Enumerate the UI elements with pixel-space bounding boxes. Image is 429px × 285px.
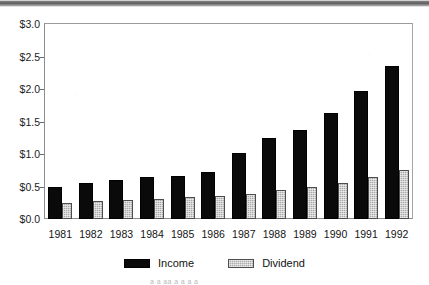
y-axis: $3.0$2.5$2.0$1.5$1.0$0.5$0.0 <box>0 0 40 285</box>
y-tick-mark <box>40 154 44 155</box>
bar-group <box>79 24 103 219</box>
bar-group <box>201 24 225 219</box>
bars-layer <box>45 24 412 219</box>
x-tick-label: 1990 <box>320 228 351 240</box>
bar-group <box>171 24 195 219</box>
bar-dividend-1981[interactable] <box>62 203 72 219</box>
y-tick-mark <box>40 89 44 90</box>
x-tick-label: 1991 <box>351 228 382 240</box>
bar-income-1983[interactable] <box>109 180 123 219</box>
bar-income-1990[interactable] <box>324 113 338 219</box>
bar-dividend-1988[interactable] <box>276 190 286 219</box>
bar-income-1986[interactable] <box>201 172 215 219</box>
x-tick-label: 1987 <box>229 228 260 240</box>
legend-item-dividend[interactable]: Dividend <box>228 258 305 269</box>
bar-income-1982[interactable] <box>79 183 93 219</box>
x-tick-label: 1981 <box>45 228 76 240</box>
y-tick-label: $0.0 <box>0 214 40 224</box>
bar-dividend-1986[interactable] <box>215 196 225 219</box>
x-tick-label: 1985 <box>167 228 198 240</box>
y-tick-mark <box>40 57 44 58</box>
bar-income-1984[interactable] <box>140 177 154 219</box>
y-tick-label: $3.0 <box>0 19 40 29</box>
bar-group <box>262 24 286 219</box>
bar-income-1989[interactable] <box>293 130 307 219</box>
bar-group <box>140 24 164 219</box>
x-tick-label: 1984 <box>137 228 168 240</box>
legend-label-income: Income <box>158 258 194 269</box>
chart-legend: Income Dividend <box>0 255 429 271</box>
page-caption-cutoff: a a aa a a a a <box>150 279 425 285</box>
bar-income-1985[interactable] <box>171 176 185 219</box>
y-tick-label: $1.5 <box>0 117 40 127</box>
y-tick-mark <box>40 122 44 123</box>
bar-income-1987[interactable] <box>232 153 246 219</box>
bar-group <box>109 24 133 219</box>
x-tick-label: 1986 <box>198 228 229 240</box>
legend-swatch-dividend-icon <box>228 259 254 268</box>
y-tick-label: $1.0 <box>0 149 40 159</box>
bar-income-1992[interactable] <box>385 66 399 219</box>
bar-chart-figure: $3.0$2.5$2.0$1.5$1.0$0.5$0.0 19811982198… <box>0 0 429 285</box>
x-tick-label: 1983 <box>106 228 137 240</box>
bar-group <box>385 24 409 219</box>
y-tick-label: $2.0 <box>0 84 40 94</box>
bar-income-1981[interactable] <box>48 187 62 220</box>
legend-item-income[interactable]: Income <box>124 258 194 269</box>
x-tick-label: 1989 <box>290 228 321 240</box>
bar-dividend-1983[interactable] <box>123 200 133 219</box>
bar-dividend-1989[interactable] <box>307 187 317 219</box>
x-axis: 1981198219831984198519861987198819891990… <box>45 228 412 242</box>
bar-group <box>293 24 317 219</box>
x-tick-label: 1992 <box>381 228 412 240</box>
bar-group <box>232 24 256 219</box>
bar-income-1991[interactable] <box>354 91 368 219</box>
x-tick-label: 1982 <box>76 228 107 240</box>
bar-dividend-1991[interactable] <box>368 177 378 219</box>
bar-group <box>324 24 348 219</box>
bar-dividend-1985[interactable] <box>185 197 195 219</box>
bar-dividend-1992[interactable] <box>399 170 409 219</box>
bar-dividend-1984[interactable] <box>154 199 164 219</box>
bar-dividend-1987[interactable] <box>246 194 256 219</box>
bar-income-1988[interactable] <box>262 138 276 219</box>
legend-swatch-income-icon <box>124 259 150 268</box>
y-tick-label: $2.5 <box>0 52 40 62</box>
bar-group <box>48 24 72 219</box>
y-tick-mark <box>40 187 44 188</box>
legend-label-dividend: Dividend <box>262 258 305 269</box>
x-tick-label: 1988 <box>259 228 290 240</box>
bar-dividend-1990[interactable] <box>338 183 348 219</box>
y-tick-label: $0.5 <box>0 182 40 192</box>
bar-dividend-1982[interactable] <box>93 201 103 219</box>
bar-group <box>354 24 378 219</box>
